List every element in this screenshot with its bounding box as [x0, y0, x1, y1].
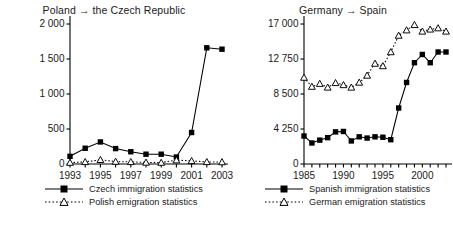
data-point-square	[325, 135, 330, 140]
data-point-square	[317, 137, 322, 142]
data-point-triangle	[435, 25, 442, 31]
data-point-square	[372, 134, 377, 139]
y-tick-label: 1 000	[5, 88, 65, 99]
legend-label-czech-immigration: Czech immigration statistics	[89, 183, 203, 195]
data-point-square	[333, 129, 338, 134]
data-point-triangle	[395, 32, 402, 38]
y-tick-label: 4 250	[239, 123, 299, 134]
data-point-triangle	[324, 84, 331, 90]
legend-key-dotted-triangle-icon	[44, 196, 84, 208]
data-point-square	[113, 146, 118, 151]
x-tick-label: 1995	[363, 170, 403, 181]
y-tick-label: 0	[239, 158, 299, 169]
data-point-triangle	[158, 159, 165, 165]
data-point-square	[204, 45, 209, 50]
data-point-square	[128, 149, 133, 154]
y-tick-label: 17 000	[239, 18, 299, 29]
data-point-triangle	[419, 28, 426, 34]
data-point-triangle	[364, 72, 371, 78]
legend-key-solid-square-icon	[264, 183, 304, 195]
series-line-filled-square	[70, 48, 222, 157]
data-point-triangle	[348, 84, 355, 90]
data-point-square	[404, 80, 409, 85]
chart-panel-germany-spain: Germany → Spain Spanish immigration stat…	[232, 0, 453, 225]
data-point-triangle	[203, 159, 210, 165]
y-tick-label: 1 500	[5, 53, 65, 64]
data-point-square	[412, 60, 417, 65]
legend-label-spanish-immigration: Spanish immigration statistics	[309, 183, 430, 195]
data-point-triangle	[411, 21, 418, 27]
data-point-square	[396, 105, 401, 110]
data-point-triangle	[387, 49, 394, 55]
y-tick-label: 2 000	[5, 18, 65, 29]
figure-container: Poland → the Czech Republic Czech immigr…	[0, 0, 453, 225]
y-tick-label: 12 750	[239, 53, 299, 64]
data-point-triangle	[427, 26, 434, 32]
data-point-triangle	[219, 159, 226, 165]
data-point-square	[143, 152, 148, 157]
data-point-triangle	[67, 159, 74, 165]
data-point-square	[301, 133, 306, 138]
data-point-square	[349, 138, 354, 143]
x-tick-label: 1990	[323, 170, 363, 181]
data-point-square	[435, 49, 440, 54]
legend-right: Spanish immigration statistics German em…	[264, 182, 430, 208]
data-point-square	[380, 135, 385, 140]
data-point-square	[443, 49, 448, 54]
chart-panel-poland-czech: Poland → the Czech Republic Czech immigr…	[0, 0, 232, 225]
data-point-square	[309, 140, 314, 145]
data-point-square	[83, 146, 88, 151]
legend-label-german-emigration: German emigration statistics	[309, 196, 425, 208]
data-point-square	[67, 154, 72, 159]
data-point-square	[189, 130, 194, 135]
legend-row-czech-immigration: Czech immigration statistics	[44, 182, 203, 195]
data-point-square	[159, 152, 164, 157]
legend-label-polish-emigration: Polish emigration statistics	[89, 196, 197, 208]
data-point-triangle	[403, 27, 410, 33]
data-point-triangle	[97, 156, 104, 162]
legend-row-german-emigration: German emigration statistics	[264, 195, 430, 208]
legend-row-spanish-immigration: Spanish immigration statistics	[264, 182, 430, 195]
legend-row-polish-emigration: Polish emigration statistics	[44, 195, 203, 208]
data-point-square	[388, 137, 393, 142]
data-point-triangle	[443, 28, 450, 34]
legend-left: Czech immigration statistics Polish emig…	[44, 182, 203, 208]
data-point-square	[341, 129, 346, 134]
data-point-square	[364, 135, 369, 140]
data-point-square	[428, 60, 433, 65]
x-tick-label: 2000	[402, 170, 442, 181]
y-tick-label: 500	[5, 123, 65, 134]
x-tick-label: 1985	[284, 170, 324, 181]
y-tick-label: 0	[5, 158, 65, 169]
data-point-triangle	[340, 82, 347, 88]
data-point-triangle	[332, 79, 339, 85]
data-point-triangle	[316, 80, 323, 86]
data-point-square	[357, 134, 362, 139]
data-point-triangle	[301, 74, 308, 80]
data-point-square	[98, 139, 103, 144]
y-tick-label: 8 500	[239, 88, 299, 99]
data-point-square	[420, 52, 425, 57]
data-point-square	[219, 47, 224, 52]
legend-key-dotted-triangle-icon	[264, 196, 304, 208]
legend-key-solid-square-icon	[44, 183, 84, 195]
data-point-triangle	[372, 60, 379, 66]
